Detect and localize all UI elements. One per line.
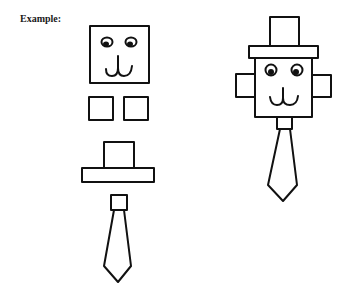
drawing-canvas [0, 0, 353, 296]
tie-icon [268, 129, 297, 201]
right-eye-icon [126, 38, 137, 47]
separated-parts [82, 26, 154, 282]
right-ear-square [124, 97, 148, 120]
assembled-figure [236, 17, 331, 201]
right-ear [312, 75, 331, 97]
face-square [255, 58, 312, 117]
neck-knot [111, 195, 127, 210]
left-eye-icon [266, 65, 277, 76]
right-eye-icon [292, 65, 303, 76]
neck-knot [277, 117, 292, 129]
top-hat-icon [82, 142, 154, 182]
top-hat-icon [249, 17, 318, 58]
face-square [90, 26, 149, 83]
left-ear-square [89, 97, 113, 120]
left-eye-icon [102, 38, 113, 47]
tie-icon [104, 210, 131, 282]
left-ear [236, 74, 255, 97]
